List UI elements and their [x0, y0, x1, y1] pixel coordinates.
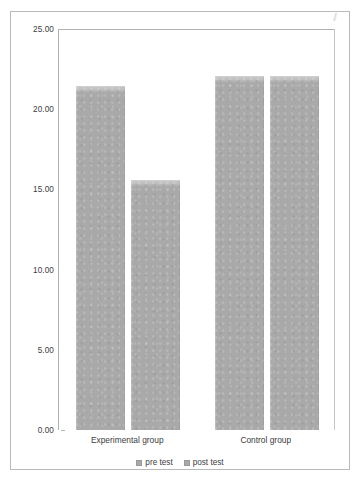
bar-pre-test-experimental-group — [76, 86, 125, 430]
legend-item-pre-test: pre test — [136, 458, 172, 467]
legend-label: post test — [193, 458, 224, 467]
y-axis: 0.005.0010.0015.0020.0025.00 — [16, 11, 54, 470]
y-axis-tick-label: 15.00 — [16, 185, 54, 194]
y-axis-tick-label: 0.00 — [16, 426, 54, 435]
chart-legend: pre testpost test — [10, 458, 350, 467]
x-axis-category-label: Control group — [240, 435, 291, 446]
y-axis-tick-label: 5.00 — [16, 345, 54, 354]
y-axis-tick-label: 20.00 — [16, 105, 54, 114]
bar-pre-test-control-group — [215, 76, 264, 430]
bar-chart: 0.005.0010.0015.0020.0025.00 Experimenta… — [10, 11, 350, 470]
legend-label: pre test — [145, 458, 172, 467]
plot-area — [58, 29, 335, 430]
y-axis-tick-label: 10.00 — [16, 265, 54, 274]
bars-layer — [59, 30, 334, 430]
x-axis-category-label: Experimental group — [91, 435, 164, 446]
y-axis-tick-mark — [61, 430, 65, 431]
x-axis-category-labels: Experimental groupControl group — [58, 435, 335, 449]
legend-item-post-test: post test — [184, 458, 224, 467]
legend-swatch-icon — [136, 460, 142, 466]
legend-swatch-icon — [184, 460, 190, 466]
y-axis-tick-label: 25.00 — [16, 25, 54, 34]
bar-post-test-experimental-group — [131, 180, 180, 430]
bar-post-test-control-group — [270, 76, 319, 430]
